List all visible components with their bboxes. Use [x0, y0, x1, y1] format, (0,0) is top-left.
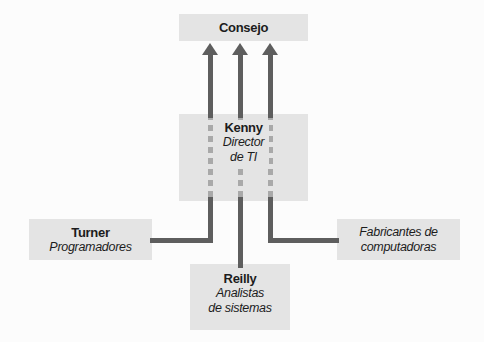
node-turner-label: Turner Programadores	[49, 225, 131, 255]
edge-fabricantes-vertical	[268, 197, 273, 243]
edge-turner-vertical	[208, 197, 213, 243]
node-reilly-role-2: de sistemas	[208, 301, 271, 316]
node-reilly: Reilly Analistas de sistemas	[190, 264, 290, 330]
edge-turner-dashed-through-kenny	[208, 114, 213, 201]
node-turner-name: Turner	[49, 225, 131, 240]
edge-fabricantes-shaft	[268, 54, 273, 118]
edge-turner-shaft	[208, 54, 213, 118]
node-kenny: Kenny Director de TI	[179, 114, 308, 201]
edge-reilly-shaft	[238, 54, 243, 118]
node-fabricantes-line-1: Fabricantes de	[359, 225, 438, 240]
org-diagram: Consejo Kenny Director de TI Turner Prog…	[0, 0, 484, 342]
node-consejo: Consejo	[179, 14, 308, 41]
arrow-up-icon	[202, 43, 218, 55]
edge-turner-horizontal	[150, 238, 213, 243]
node-consejo-label: Consejo	[219, 20, 268, 35]
node-kenny-name: Kenny	[223, 120, 264, 135]
node-kenny-role-1: Director	[223, 135, 264, 150]
node-kenny-role-2: de TI	[223, 150, 264, 165]
arrow-up-icon	[262, 43, 278, 55]
node-fabricantes: Fabricantes de computadoras	[337, 219, 460, 260]
node-reilly-name: Reilly	[208, 271, 271, 286]
node-fabricantes-line-2: computadoras	[359, 240, 438, 255]
arrow-up-icon	[232, 43, 248, 55]
node-fabricantes-label: Fabricantes de computadoras	[359, 225, 438, 254]
node-reilly-role-1: Analistas	[208, 286, 271, 301]
node-turner: Turner Programadores	[29, 219, 152, 260]
edge-fabricantes-horizontal	[268, 238, 339, 243]
node-kenny-label: Kenny Director de TI	[218, 120, 269, 164]
edge-reilly-vertical	[238, 197, 243, 268]
node-reilly-label: Reilly Analistas de sistemas	[208, 271, 271, 315]
node-consejo-name: Consejo	[219, 20, 268, 35]
node-turner-role: Programadores	[49, 240, 131, 255]
